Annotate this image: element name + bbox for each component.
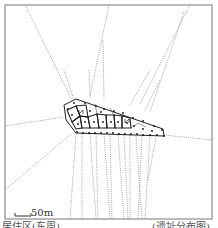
map-frame [5,5,212,219]
scale-bar [15,213,31,216]
dotted-boundary-lines [5,5,212,219]
cell-grid [67,105,131,129]
caption-left: 居住区(东周) [2,222,60,228]
settlement-cluster [64,99,165,137]
scale-bar-label: 50m [31,208,53,218]
site-points [67,102,165,137]
diagram-canvas [0,0,218,228]
caption-right: (遗址分布图) [152,222,210,228]
